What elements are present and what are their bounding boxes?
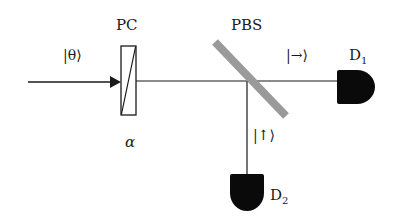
pc-label: PC: [116, 18, 138, 33]
input-arrowhead-icon: [110, 76, 121, 88]
optical-diagram: |θ⟩ PC α PBS |→⟩ |↑⟩ D1 D2: [0, 0, 393, 217]
detector-1-label: D1: [349, 48, 367, 66]
detector-2-subscript: 2: [282, 195, 288, 206]
detector-2-icon: [230, 174, 264, 211]
detector-2-letter: D: [270, 186, 282, 204]
detector-1-icon: [337, 70, 375, 104]
detector-1-letter: D: [349, 46, 361, 64]
transmitted-state-label: |→⟩: [286, 48, 308, 62]
detector-1-subscript: 1: [361, 55, 367, 66]
pbs-mirror: [215, 42, 286, 116]
alpha-label: α: [125, 135, 135, 150]
diagram-graphics: [0, 0, 393, 217]
input-state-label: |θ⟩: [63, 48, 82, 62]
pbs-label: PBS: [231, 18, 262, 33]
reflected-state-label: |↑⟩: [253, 128, 275, 142]
detector-2-label: D2: [270, 188, 288, 206]
